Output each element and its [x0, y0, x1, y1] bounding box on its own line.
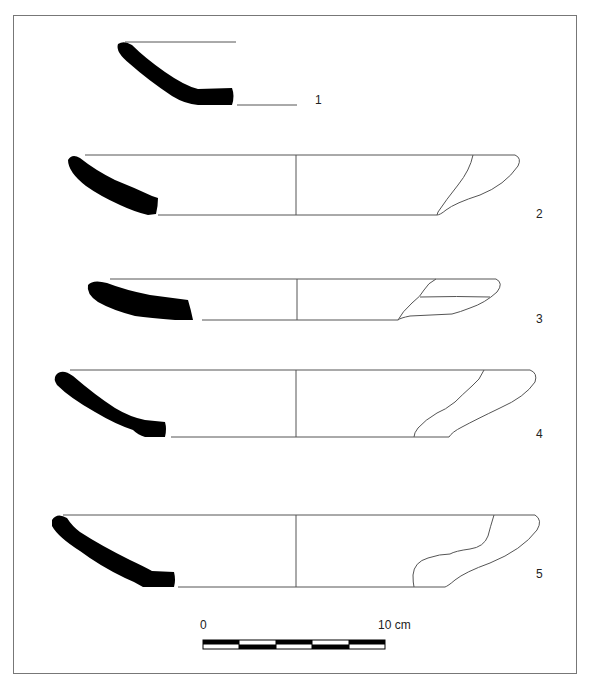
- scale-end-label: 10 cm: [378, 618, 411, 632]
- scale-start-label: 0: [200, 618, 207, 632]
- vessel-4-section: [55, 372, 166, 437]
- vessel-1-section: [118, 42, 234, 105]
- pottery-drawings: [0, 0, 591, 683]
- vessel-number-2: 2: [536, 207, 543, 221]
- vessel-5-section: [52, 515, 175, 587]
- vessel-number-5: 5: [536, 567, 543, 581]
- vessel-number-1: 1: [315, 93, 322, 107]
- vessel-3-section: [88, 281, 193, 320]
- scale-bar: [203, 640, 385, 649]
- vessel-number-4: 4: [536, 427, 543, 441]
- vessel-number-3: 3: [536, 312, 543, 326]
- vessel-2-section: [68, 156, 158, 215]
